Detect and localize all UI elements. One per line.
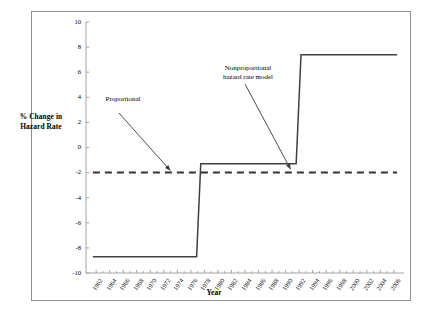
y-tick-label: 0 bbox=[59, 143, 81, 150]
y-tick-label: 4 bbox=[59, 93, 81, 100]
annotation-nonproportional: Nonproportional hazard rate model bbox=[205, 64, 291, 83]
y-tick-label: 6 bbox=[59, 68, 81, 75]
y-tick-label: 2 bbox=[59, 118, 81, 125]
figure-container: % Change in Hazard Rate Year Proportiona… bbox=[0, 0, 424, 318]
y-tick-label: -2 bbox=[59, 168, 81, 175]
annotation-proportional: Proportional bbox=[92, 95, 154, 104]
nonproportional-arrow bbox=[245, 84, 291, 169]
y-tick-label: 8 bbox=[59, 43, 81, 50]
axes-group bbox=[86, 22, 404, 273]
y-tick-label: -10 bbox=[59, 269, 81, 276]
y-tick-label: -8 bbox=[59, 244, 81, 251]
y-tick-label: 10 bbox=[59, 18, 81, 25]
y-tick-label: -6 bbox=[59, 219, 81, 226]
proportional-arrow bbox=[119, 113, 170, 171]
y-tick-label: -4 bbox=[59, 194, 81, 201]
